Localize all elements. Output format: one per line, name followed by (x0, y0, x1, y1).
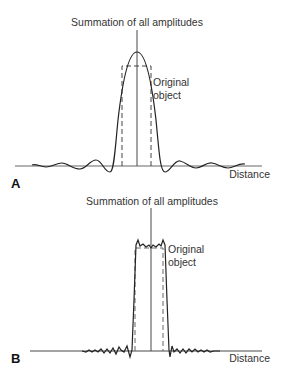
panel-a-title: Summation of all amplitudes (71, 16, 203, 28)
panel-b-object-label-line1: Original (168, 243, 204, 255)
figure-canvas: Summation of all amplitudes Original obj… (0, 0, 286, 384)
panel-b: Summation of all amplitudes Original obj… (11, 195, 270, 366)
panel-b-axis-label: Distance (229, 352, 270, 364)
panel-a: Summation of all amplitudes Original obj… (11, 16, 270, 191)
panel-a-axis-label: Distance (229, 168, 270, 180)
panel-a-summation-curve (32, 52, 245, 172)
panel-a-object-label-line2: object (153, 89, 181, 101)
panel-a-object-label-line1: Original (153, 76, 189, 88)
panel-a-original-object-outline (122, 66, 151, 166)
panel-a-letter: A (11, 176, 21, 191)
panel-b-title: Summation of all amplitudes (86, 195, 218, 207)
panel-b-object-label-line2: object (168, 256, 196, 268)
panel-b-original-object-outline (135, 248, 163, 351)
panel-b-letter: B (11, 351, 20, 366)
